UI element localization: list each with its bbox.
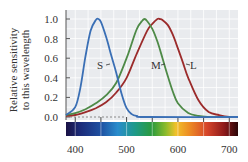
x-tick-label: 500 — [118, 143, 135, 155]
chart-canvas: 0.00.20.40.60.81.0 400500600700 S M L — [0, 0, 248, 162]
label-m-cone: M — [151, 59, 161, 71]
label-s-cone: S — [97, 59, 103, 71]
x-tick-label: 700 — [221, 143, 238, 155]
y-tick-label: 0.6 — [44, 52, 58, 64]
x-tick-label: 400 — [67, 143, 84, 155]
y-tick-label: 0.4 — [44, 72, 58, 84]
y-tick-label: 0.2 — [44, 91, 58, 103]
y-tick-label: 0.8 — [44, 33, 58, 45]
label-l-cone: L — [190, 59, 197, 71]
x-axis-ticks: 400500600700 — [67, 143, 238, 155]
x-tick-label: 600 — [170, 143, 187, 155]
y-tick-label: 1.0 — [44, 13, 58, 25]
y-tick-label: 0.0 — [44, 111, 58, 123]
